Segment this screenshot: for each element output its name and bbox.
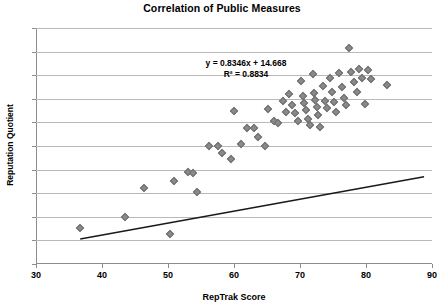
gridline [36, 240, 432, 241]
gridline [36, 146, 432, 147]
regression-annotation: y = 0.8346x + 14.668 R² = 0.8834 [146, 58, 346, 79]
x-axis-title: RepTrak Score [36, 292, 432, 302]
gridline [36, 193, 432, 194]
gridline [36, 28, 432, 29]
plot-area: 4045505560657075808590 30405060708090 y … [36, 28, 432, 264]
r-squared-text: R² = 0.8834 [146, 69, 346, 80]
chart-title: Correlation of Public Measures [0, 2, 444, 14]
equation-text: y = 0.8346x + 14.668 [146, 58, 346, 69]
y-tick [32, 75, 36, 76]
y-tick [32, 193, 36, 194]
y-tick [32, 28, 36, 29]
gridline [36, 170, 432, 171]
x-tick-label: 60 [214, 270, 254, 280]
x-tick-label: 30 [16, 270, 56, 280]
y-tick [32, 52, 36, 53]
x-tick [432, 264, 433, 268]
y-tick [32, 99, 36, 100]
y-tick [32, 146, 36, 147]
gridline [36, 122, 432, 123]
y-tick [32, 170, 36, 171]
y-tick [32, 217, 36, 218]
x-tick [234, 264, 235, 268]
x-tick-label: 40 [82, 270, 122, 280]
x-tick-label: 70 [280, 270, 320, 280]
gridline [36, 217, 432, 218]
x-tick-label: 90 [412, 270, 444, 280]
x-tick [36, 264, 37, 268]
x-tick [168, 264, 169, 268]
x-tick [366, 264, 367, 268]
y-tick [32, 240, 36, 241]
gridline [36, 52, 432, 53]
gridline [36, 99, 432, 100]
y-tick [32, 122, 36, 123]
y-axis-title: Reputation Quotient [5, 104, 15, 186]
x-tick [300, 264, 301, 268]
x-tick-label: 80 [346, 270, 386, 280]
x-tick [102, 264, 103, 268]
x-tick-label: 50 [148, 270, 188, 280]
